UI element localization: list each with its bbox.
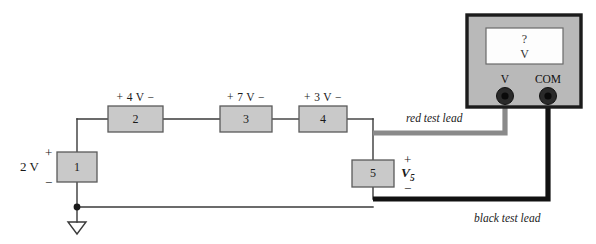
element-3-drop-label: + 7 V − — [219, 92, 273, 104]
source-value-label: 2 V — [20, 160, 39, 173]
element-5-number: 5 — [352, 167, 394, 179]
element-2-drop-label: + 4 V − — [106, 92, 165, 104]
element-2-number: 2 — [108, 113, 163, 125]
junction-dot — [74, 204, 81, 211]
element-4-drop-label: + 3 V − — [297, 92, 349, 104]
meter-jack-v-hole — [501, 92, 508, 99]
source-minus-sign: − — [45, 176, 52, 189]
v5-minus-sign: − — [404, 182, 411, 195]
v5-symbol-letter: V — [401, 165, 410, 180]
meter-terminal-v-label: V — [491, 74, 519, 86]
meter-terminal-com-label: COM — [527, 74, 569, 86]
element-4-number: 4 — [299, 113, 347, 125]
circuit-diagram-figure: + 4 V − + 7 V − + 3 V − 1 2 3 4 5 2 V + … — [0, 0, 596, 244]
meter-display-value: ? V — [486, 32, 563, 62]
ground-symbol — [68, 222, 86, 234]
circuit-wires — [77, 119, 373, 222]
element-3-number: 3 — [220, 113, 272, 125]
meter-display-line1: ? — [486, 32, 563, 47]
element-1-number: 1 — [57, 161, 97, 173]
meter-jack-com-hole — [544, 92, 551, 99]
meter-display-line2: V — [486, 47, 563, 62]
red-test-lead-label: red test lead — [406, 113, 462, 125]
source-plus-sign: + — [45, 146, 52, 159]
black-test-lead-label: black test lead — [474, 213, 540, 225]
